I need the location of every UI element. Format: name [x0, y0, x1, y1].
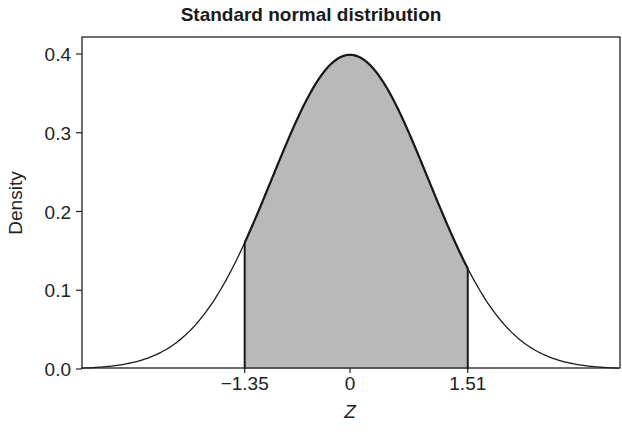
- y-tick-label: 0.2: [45, 202, 71, 223]
- y-tick-label: 0.1: [45, 280, 71, 301]
- density-chart: 0.00.10.20.30.4 −1.3501.51 Z Density: [0, 0, 622, 432]
- x-axis: −1.3501.51: [221, 368, 487, 394]
- y-axis: 0.00.10.20.30.4: [45, 44, 82, 380]
- y-tick-label: 0.0: [45, 359, 71, 380]
- x-tick-label: 1.51: [449, 373, 486, 394]
- y-tick-label: 0.3: [45, 123, 71, 144]
- shaded-area: [245, 55, 468, 369]
- x-tick-label: −1.35: [221, 373, 269, 394]
- y-tick-label: 0.4: [45, 44, 72, 65]
- y-axis-label: Density: [5, 171, 26, 235]
- x-axis-label: Z: [343, 401, 357, 422]
- x-tick-label: 0: [345, 373, 356, 394]
